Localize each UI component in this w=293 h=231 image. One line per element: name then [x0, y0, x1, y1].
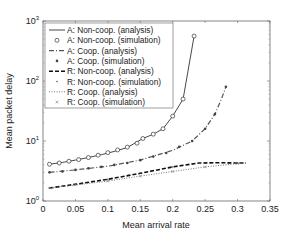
x-axis-label: Mean arrival rate: [122, 220, 190, 230]
y-tick-label: 101: [26, 135, 40, 146]
y-tick-label: 100: [26, 195, 40, 206]
x-tick-label: 0: [40, 204, 45, 214]
legend-item: R: Non-coop. (simulation): [56, 77, 161, 87]
legend-label: A: Non-coop. (simulation): [67, 35, 161, 45]
x-tick-label: 0.35: [261, 204, 279, 214]
legend-label: R: Coop. (analysis): [67, 87, 138, 97]
legend-item: R: Coop. (simulation): [56, 97, 145, 107]
series-r-coop-analysis-: [50, 163, 247, 188]
legend-label: R: Non-coop. (analysis): [67, 66, 154, 76]
legend-label: A: Coop. (analysis): [67, 46, 137, 56]
y-tick-label: 102: [26, 75, 40, 86]
legend-label: A: Coop. (simulation): [67, 56, 145, 66]
legend: A: Non-coop. (analysis)A: Non-coop. (sim…: [45, 23, 173, 108]
legend-item: A: Non-coop. (simulation): [55, 35, 161, 45]
x-tick-label: 0.05: [67, 204, 85, 214]
legend-label: R: Coop. (simulation): [67, 97, 145, 107]
series-r-non-coop-analysis-: [50, 163, 247, 188]
legend-label: A: Non-coop. (analysis): [67, 25, 153, 35]
legend-label: R: Non-coop. (simulation): [67, 77, 161, 87]
y-tick-label: 103: [26, 15, 40, 26]
series-r-coop-simulation-: [48, 162, 239, 189]
legend-item: A: Coop. (simulation): [56, 56, 145, 66]
x-tick-label: 0.1: [102, 204, 115, 214]
chart: 00.050.10.150.20.250.30.35 100101102103 …: [0, 0, 293, 231]
x-tick-label: 0.25: [196, 204, 214, 214]
y-axis-label: Mean packet delay: [4, 73, 14, 149]
x-tick-label: 0.15: [132, 204, 150, 214]
x-tick-label: 0.3: [231, 204, 244, 214]
x-tick-label: 0.2: [166, 204, 179, 214]
